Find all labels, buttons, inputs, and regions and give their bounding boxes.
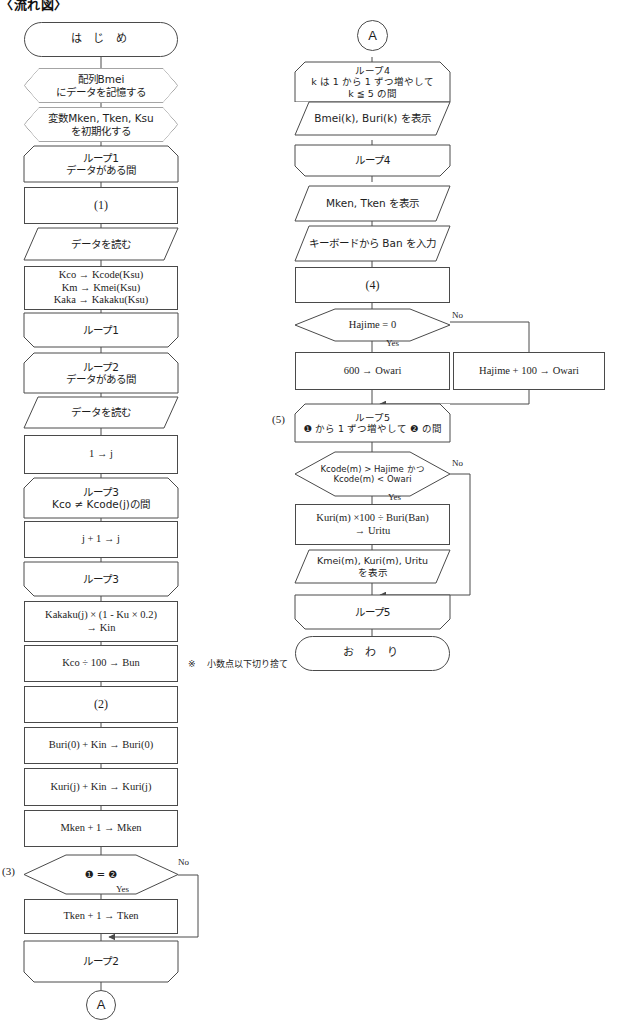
node-print-bmei: Bmei(k), Buri(k) を表示: [295, 102, 450, 135]
node-calc-uritu: Kuri(m) ×100 ÷ Buri(Ban) → Uritu: [295, 504, 450, 545]
node-start: は じ め: [24, 22, 178, 57]
node-assign-kco: Kco → Kcode(Ksu) Km → Kmei(Ksu) Kaka → K…: [24, 266, 178, 310]
node-calc-bun: Kco ÷ 100 → Bun: [24, 645, 178, 682]
node-blank2: (2): [24, 686, 178, 723]
node-loop5-end: ループ5: [295, 595, 450, 629]
label-blank5: (5): [272, 413, 285, 425]
node-read-data-2: データを読む: [24, 397, 178, 428]
node-loop4-start: ループ4 k は 1 から 1 ずつ増やして k ≦ 5 の間: [295, 62, 450, 102]
node-loop1-end: ループ1: [24, 313, 178, 347]
label-no-hajime: No: [452, 310, 463, 320]
footnote-text: 小数点以下切り捨て: [207, 659, 288, 669]
node-decision-equal: ❶ = ❷: [24, 855, 178, 894]
node-loop2-end: ループ2: [24, 941, 178, 982]
node-loop4-end: ループ4: [295, 145, 450, 176]
node-print-mken: Mken, Tken を表示: [295, 186, 450, 221]
node-buri-acc: Buri(0) + Kin → Buri(0): [24, 727, 178, 764]
document-title: 〈流れ図〉: [0, 0, 68, 13]
label-no-kcode: No: [452, 458, 463, 468]
node-kuri-acc: Kuri(j) + Kin → Kuri(j): [24, 768, 178, 806]
node-decision-hajime: Hajime = 0: [295, 309, 450, 341]
label-yes-hajime: Yes: [386, 338, 399, 348]
label-blank3: (3): [2, 865, 15, 877]
node-blank1: (1): [24, 187, 178, 224]
connector-a-in: A: [357, 20, 388, 51]
node-owari-600: 600 → Owari: [295, 352, 450, 390]
node-loop3-end: ループ3: [24, 562, 178, 596]
footnote: ※ 小数点以下切り捨て: [188, 657, 288, 670]
node-calc-kin: Kakaku(j) × (1 - Ku × 0.2) → Kin: [24, 601, 178, 642]
node-owari-calc: Hajime + 100 → Owari: [453, 352, 605, 390]
node-loop3-start: ループ3 Kco ≠ Kcode(j)の間: [24, 478, 178, 518]
node-prep-vars: 変数Mken, Tken, Ksu を初期化する: [24, 107, 178, 142]
label-yes-3: Yes: [116, 884, 129, 894]
node-end: お わ り: [295, 636, 450, 671]
node-mken-incr: Mken + 1 → Mken: [24, 810, 178, 847]
node-prep-bmei: 配列Bmei にデータを記憶する: [24, 68, 178, 103]
node-loop5-start: ループ5 ❶ から 1 ずつ増やして ❷ の間: [295, 404, 450, 442]
connector-a-out: A: [86, 990, 116, 1020]
node-loop1-start: ループ1 データがある間: [24, 146, 178, 182]
node-read-data-1: データを読む: [24, 228, 178, 260]
node-decision-kcode: Kcode(m) > Hajime かつ Kcode(m) < Owari: [295, 452, 450, 496]
node-init-j: 1 → j: [24, 435, 178, 474]
node-incr-j: j + 1 → j: [24, 521, 178, 558]
label-no-3: No: [178, 857, 189, 867]
node-print-kmei: Kmei(m), Kuri(m), Uritu を表示: [295, 550, 450, 583]
footnote-marker: ※: [188, 659, 196, 669]
node-blank4: (4): [295, 267, 450, 303]
label-yes-kcode: Yes: [388, 492, 401, 502]
node-input-ban: キーボードから Ban を入力: [295, 226, 450, 261]
node-loop2-start: ループ2 データがある間: [24, 353, 178, 393]
node-tken-incr: Tken + 1 → Tken: [24, 899, 178, 934]
